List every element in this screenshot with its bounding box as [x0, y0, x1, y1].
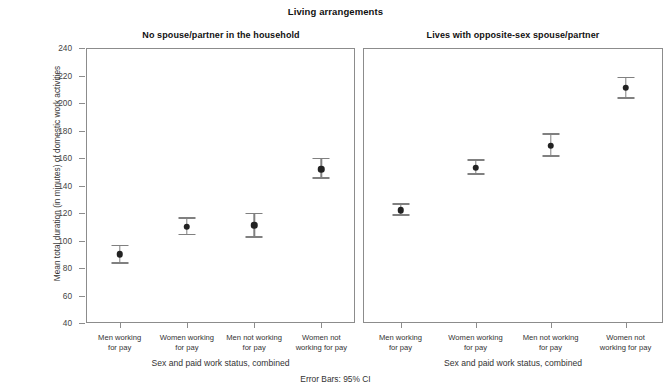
data-point-group[interactable] — [175, 217, 199, 235]
x-axis-title-left: Sex and paid work status, combined — [86, 358, 355, 368]
data-point-group[interactable] — [464, 159, 488, 174]
error-bar-cap-upper — [542, 133, 559, 134]
x-category-label-line: for pay — [363, 343, 438, 353]
x-category-label-line: working for pay — [288, 343, 355, 353]
y-tick-mark — [79, 241, 85, 242]
y-tick-mark — [79, 103, 85, 104]
y-tick-mark — [79, 76, 85, 77]
y-tick-label: 160 — [46, 154, 72, 162]
error-bar-cap-upper — [111, 245, 128, 246]
error-bar-cap-upper — [467, 159, 484, 160]
data-point-group[interactable] — [539, 133, 563, 156]
x-category-label-line: Men working — [363, 333, 438, 343]
x-tick-mark — [551, 323, 552, 328]
y-tick-mark — [79, 268, 85, 269]
data-point-marker[interactable] — [547, 142, 554, 149]
panel-title-right: Lives with opposite-sex spouse/partner — [363, 30, 663, 40]
y-tick-mark — [79, 213, 85, 214]
x-tick-mark — [626, 323, 627, 328]
error-bar-cap-lower — [111, 262, 128, 263]
y-tick-label: 220 — [46, 72, 72, 80]
data-point-marker[interactable] — [318, 166, 325, 173]
y-tick-label: 120 — [46, 209, 72, 217]
plot-area-left — [86, 48, 355, 323]
data-point-marker[interactable] — [184, 224, 191, 231]
x-category-label-line: working for pay — [588, 343, 663, 353]
y-tick-label: 100 — [46, 237, 72, 245]
x-category-label-line: Women not — [588, 333, 663, 343]
error-bar-cap-lower — [467, 173, 484, 174]
y-tick-label: 80 — [46, 264, 72, 272]
x-category-label-line: for pay — [86, 343, 153, 353]
y-tick-mark — [79, 296, 85, 297]
y-tick-label: 40 — [46, 319, 72, 327]
data-point-marker[interactable] — [251, 222, 258, 229]
error-bar-cap-lower — [617, 97, 634, 98]
error-bar-footnote: Error Bars: 95% CI — [0, 374, 671, 384]
data-point-marker[interactable] — [622, 85, 629, 92]
x-tick-mark — [187, 323, 188, 328]
error-bar-cap-lower — [542, 155, 559, 156]
y-tick-mark — [79, 48, 85, 49]
x-category-label: Women notworking for pay — [288, 333, 355, 353]
x-category-label: Women notworking for pay — [588, 333, 663, 353]
x-category-label: Men not workingfor pay — [221, 333, 288, 353]
error-bar-cap-upper — [246, 213, 263, 214]
x-category-label: Women workingfor pay — [153, 333, 220, 353]
panel-title-left: No spouse/partner in the household — [85, 30, 357, 40]
y-tick-label: 200 — [46, 99, 72, 107]
x-tick-mark — [321, 323, 322, 328]
y-tick-mark — [79, 131, 85, 132]
data-point-marker[interactable] — [116, 251, 123, 258]
error-bar-cap-upper — [392, 203, 409, 204]
x-tick-mark — [254, 323, 255, 328]
y-tick-mark — [79, 323, 85, 324]
error-bar-cap-lower — [313, 177, 330, 178]
x-tick-mark — [401, 323, 402, 328]
data-point-group[interactable] — [389, 203, 413, 215]
chart-title: Living arrangements — [0, 6, 671, 17]
y-tick-mark — [79, 186, 85, 187]
chart-figure: Living arrangements No spouse/partner in… — [0, 0, 671, 391]
x-category-label-line: Men not working — [221, 333, 288, 343]
x-category-label-line: for pay — [153, 343, 220, 353]
x-category-label-line: Women working — [153, 333, 220, 343]
y-tick-mark — [79, 158, 85, 159]
y-axis-tick-labels: 240220200180160140120100806040 — [44, 0, 72, 391]
x-category-label-line: for pay — [513, 343, 588, 353]
x-category-label-line: Men working — [86, 333, 153, 343]
error-bar-cap-upper — [313, 158, 330, 159]
y-tick-label: 240 — [46, 44, 72, 52]
data-point-marker[interactable] — [397, 207, 404, 214]
y-tick-label: 60 — [46, 292, 72, 300]
x-category-label: Men not workingfor pay — [513, 333, 588, 353]
x-category-label-line: for pay — [221, 343, 288, 353]
x-category-label-line: for pay — [438, 343, 513, 353]
y-tick-label: 140 — [46, 182, 72, 190]
x-category-label-line: Men not working — [513, 333, 588, 343]
x-category-label: Men workingfor pay — [86, 333, 153, 353]
y-tick-label: 180 — [46, 127, 72, 135]
x-category-label-line: Women not — [288, 333, 355, 343]
data-point-group[interactable] — [614, 77, 638, 99]
data-point-group[interactable] — [242, 213, 266, 238]
error-bar-cap-upper — [617, 77, 634, 78]
error-bar-cap-upper — [178, 217, 195, 218]
error-bar-cap-lower — [392, 214, 409, 215]
x-category-label: Women workingfor pay — [438, 333, 513, 353]
data-point-group[interactable] — [108, 245, 132, 264]
error-bar-cap-lower — [246, 236, 263, 237]
error-bar-cap-lower — [178, 234, 195, 235]
x-tick-mark — [476, 323, 477, 328]
data-point-group[interactable] — [309, 158, 333, 179]
data-point-marker[interactable] — [472, 164, 479, 171]
x-tick-mark — [120, 323, 121, 328]
x-axis-title-right: Sex and paid work status, combined — [363, 358, 663, 368]
x-category-label: Men workingfor pay — [363, 333, 438, 353]
x-category-label-line: Women working — [438, 333, 513, 343]
